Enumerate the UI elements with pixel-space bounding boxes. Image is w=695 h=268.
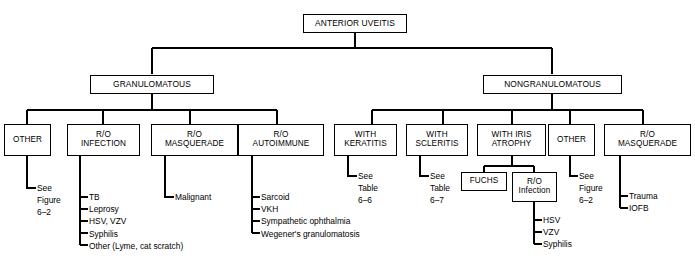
list-item: VKH — [261, 203, 360, 215]
node-fuchs: FUCHS — [461, 172, 507, 191]
list-item: TB — [89, 191, 183, 203]
node-label: NONGRANULOMATOUS — [504, 80, 601, 89]
node-with-scleritis: WITH SCLERITIS — [406, 124, 468, 156]
node-label: WITH KERATITIS — [344, 131, 387, 149]
leaf-list-ro-infection: TB Leprosy HSV, VZV Syphilis Other (Lyme… — [89, 191, 183, 252]
node-label: GRANULOMATOUS — [113, 80, 191, 89]
list-item: Syphilis — [543, 238, 572, 250]
list-item: Sympathetic ophthalmia — [261, 215, 360, 227]
leaf-list-ro-autoimmune: Sarcoid VKH Sympathetic ophthalmia Wegen… — [261, 191, 360, 240]
node-label: OTHER — [557, 136, 586, 145]
leaf-list-ro-masquerade-granulomatous: Malignant — [175, 191, 211, 203]
node-label: WITH IRIS ATROPHY — [491, 131, 531, 149]
node-ro-masquerade-nongranulomatous: R/O MASQUERADE — [604, 124, 691, 156]
node-label: OTHER — [13, 136, 42, 145]
node-granulomatous: GRANULOMATOUS — [90, 75, 214, 94]
list-item: Leprosy — [89, 203, 183, 215]
list-item: Syphilis — [89, 228, 183, 240]
list-item: Wegener's granulomatosis — [261, 228, 360, 240]
node-label: FUCHS — [470, 177, 499, 186]
node-with-keratitis: WITH KERATITIS — [334, 124, 397, 156]
node-ro-masquerade-granulomatous: R/O MASQUERADE — [151, 124, 238, 156]
node-label: R/O AUTOIMMUNE — [253, 131, 310, 149]
node-nongranulomatous: NONGRANULOMATOUS — [483, 75, 622, 94]
list-item: IOFB — [629, 202, 658, 214]
leaf-list-ro-infection-iris: HSV VZV Syphilis — [543, 214, 572, 251]
leaf-see-table-6-7: See Table 6–7 — [430, 170, 450, 207]
anterior-uveitis-flowchart: ANTERIOR UVEITIS GRANULOMATOUS NONGRANUL… — [0, 0, 695, 268]
node-ro-infection: R/O INFECTION — [67, 124, 140, 156]
node-label: R/O MASQUERADE — [165, 131, 224, 149]
node-label: R/O Infection — [519, 178, 551, 196]
list-item: HSV, VZV — [89, 215, 183, 227]
node-anterior-uveitis: ANTERIOR UVEITIS — [303, 14, 407, 33]
node-label: WITH SCLERITIS — [415, 131, 458, 149]
node-granulomatous-other: OTHER — [4, 124, 51, 156]
list-item: HSV — [543, 214, 572, 226]
list-item: Sarcoid — [261, 191, 360, 203]
leaf-see-table-6-6: See Table 6–6 — [358, 170, 378, 207]
node-with-iris-atrophy: WITH IRIS ATROPHY — [477, 124, 546, 156]
leaf-list-ro-masquerade-nongranulomatous: Trauma IOFB — [629, 190, 658, 214]
list-item: VZV — [543, 226, 572, 238]
leaf-see-figure-6-2-nongranulomatous: See Figure 6–2 — [579, 170, 603, 207]
node-ro-infection-iris: R/O Infection — [512, 172, 557, 202]
leaf-see-figure-6-2-granulomatous: See Figure 6–2 — [37, 182, 61, 219]
list-item: Other (Lyme, cat scratch) — [89, 240, 183, 252]
node-ro-autoimmune: R/O AUTOIMMUNE — [238, 124, 324, 156]
list-item: Malignant — [175, 191, 211, 203]
node-label: ANTERIOR UVEITIS — [315, 19, 395, 28]
node-label: R/O INFECTION — [81, 131, 126, 149]
node-label: R/O MASQUERADE — [618, 131, 677, 149]
node-nongranulomatous-other: OTHER — [548, 124, 595, 156]
list-item: Trauma — [629, 190, 658, 202]
